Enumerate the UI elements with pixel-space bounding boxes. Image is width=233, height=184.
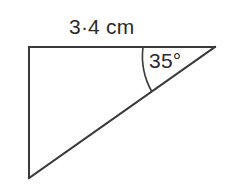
triangle-hypotenuse [29, 47, 215, 178]
side-length-label: 3·4 cm [69, 16, 134, 37]
angle-measure-label: 35° [149, 50, 181, 71]
geometry-figure: 3·4 cm 35° [0, 0, 233, 184]
